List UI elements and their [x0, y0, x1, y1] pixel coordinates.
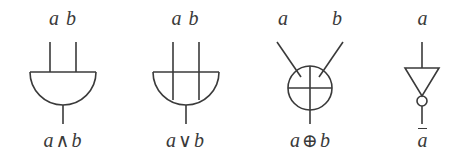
xor-gate: ab a⊕b [245, 0, 375, 164]
and-gate-body-arc [30, 72, 96, 105]
or-gate-body-arc [153, 72, 219, 105]
and-gate-output-operand-right: b [71, 129, 81, 151]
and-gate: ab a∧b [0, 0, 125, 164]
or-gate-output-operand-left: a [166, 129, 176, 151]
xor-gate-output-operand-right: b [320, 129, 330, 151]
xor-gate-output-label: a⊕b [245, 130, 375, 150]
xor-gate-input-b-wire [319, 42, 343, 77]
not-gate-triangle [405, 68, 439, 96]
xor-gate-output-operand-left: a [290, 129, 300, 151]
and-gate-output-label: a∧b [0, 130, 125, 150]
or-operator-symbol: ∨ [176, 129, 194, 151]
and-gate-output-operand-left: a [44, 129, 54, 151]
not-gate: a a [375, 0, 470, 164]
logic-gate-figure: ab a∧b ab [0, 0, 470, 164]
or-gate-output-operand-right: b [194, 129, 204, 151]
xor-operator-symbol: ⊕ [300, 129, 320, 151]
not-gate-output-overline-operand: a [417, 130, 429, 150]
or-gate: ab a∨b [125, 0, 245, 164]
or-gate-output-label: a∨b [125, 130, 245, 150]
not-gate-output-label: a [375, 130, 470, 150]
and-operator-symbol: ∧ [54, 129, 72, 151]
xor-gate-input-a-wire [277, 42, 301, 77]
